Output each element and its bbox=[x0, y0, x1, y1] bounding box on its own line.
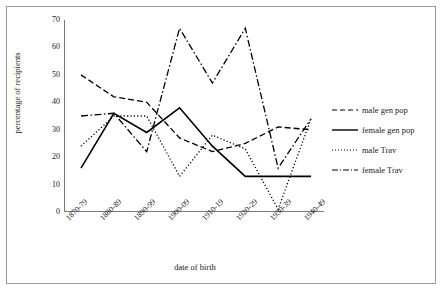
y-tick-label: 20 bbox=[38, 153, 60, 161]
legend-item-female-gen-pop: female gen pop bbox=[332, 120, 432, 140]
y-tick-label: 40 bbox=[38, 98, 60, 106]
series-line bbox=[81, 108, 311, 177]
legend-key-icon bbox=[332, 165, 358, 175]
x-axis-ticks: 1870-79 1880-89 1890-99 1900-09 1910-19 … bbox=[64, 214, 326, 260]
y-tick-label: 30 bbox=[38, 126, 60, 134]
legend-item-male-gen-pop: male gen pop bbox=[332, 100, 432, 120]
x-axis-title: date of birth bbox=[64, 262, 326, 272]
plot-area bbox=[64, 20, 324, 212]
legend-item-male-trav: male Trav bbox=[332, 140, 432, 160]
y-tick-label: 70 bbox=[38, 16, 60, 24]
legend-label: male gen pop bbox=[362, 105, 408, 115]
y-tick-label: 10 bbox=[38, 181, 60, 189]
y-axis-ticks: 70 60 50 40 30 20 10 0 bbox=[36, 20, 60, 212]
legend-key-icon bbox=[332, 125, 358, 135]
legend-label: female Trav bbox=[362, 165, 403, 175]
legend-label: female gen pop bbox=[362, 125, 414, 135]
y-tick-label: 60 bbox=[38, 43, 60, 51]
y-tick-label: 0 bbox=[38, 208, 60, 216]
legend-key-icon bbox=[332, 145, 358, 155]
series-line bbox=[81, 28, 311, 168]
series-lines bbox=[65, 20, 325, 212]
chart-figure: percentage of recipients 70 60 50 40 30 … bbox=[0, 0, 444, 291]
chart-legend: male gen pop female gen pop male Trav fe… bbox=[332, 100, 432, 180]
y-axis-title: percentage of recipients bbox=[12, 18, 22, 168]
legend-label: male Trav bbox=[362, 145, 396, 155]
legend-item-female-trav: female Trav bbox=[332, 160, 432, 180]
legend-key-icon bbox=[332, 105, 358, 115]
y-tick-label: 50 bbox=[38, 71, 60, 79]
series-line bbox=[81, 75, 311, 152]
